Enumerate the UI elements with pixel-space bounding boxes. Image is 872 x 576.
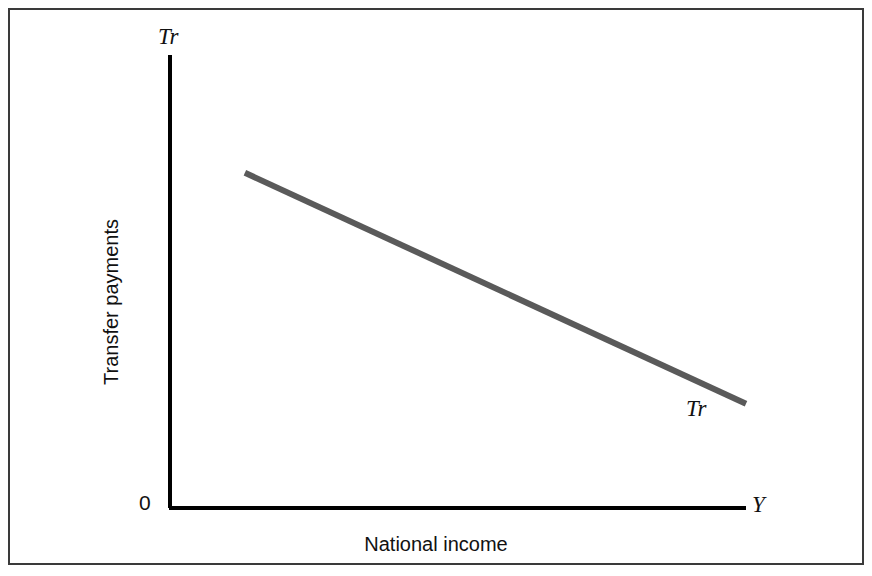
y-axis-symbol-label: Tr — [158, 24, 178, 50]
origin-label: 0 — [139, 491, 151, 515]
curve-label-tr: Tr — [686, 396, 706, 422]
y-axis-title: Transfer payments — [100, 192, 123, 412]
x-axis-title: National income — [0, 533, 872, 556]
chart-plot-area — [0, 0, 872, 576]
transfer-payments-curve — [245, 173, 746, 404]
figure-container: Tr Y Tr 0 National income Transfer payme… — [0, 0, 872, 576]
x-axis-symbol-label: Y — [752, 492, 765, 518]
